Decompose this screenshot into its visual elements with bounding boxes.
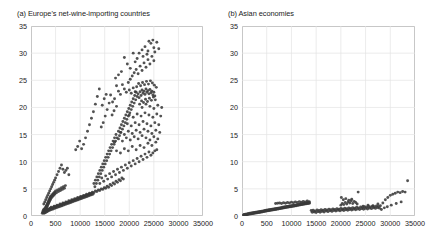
panel-b-plot-area bbox=[242, 26, 415, 216]
y-tick-label: 15 bbox=[216, 130, 238, 139]
x-tick-label: 0 bbox=[29, 219, 33, 228]
panel-europe: (a) Europe's net-wine-importing countrie… bbox=[0, 0, 215, 245]
y-tick-label: 30 bbox=[216, 49, 238, 58]
y-tick-label: 35 bbox=[5, 22, 27, 31]
y-tick-label: 35 bbox=[216, 22, 238, 31]
x-tick-label: 15000 bbox=[95, 219, 115, 228]
y-tick-label: 10 bbox=[216, 157, 238, 166]
y-tick-label: 10 bbox=[5, 157, 27, 166]
x-tick-label: 10000 bbox=[70, 219, 90, 228]
x-tick-label: 30000 bbox=[168, 219, 188, 228]
y-tick-label: 5 bbox=[216, 184, 238, 193]
y-tick-label: 0 bbox=[216, 212, 238, 221]
y-tick-label: 0 bbox=[5, 212, 27, 221]
panel-b-points bbox=[242, 26, 415, 216]
y-tick-label: 5 bbox=[5, 184, 27, 193]
y-tick-label: 30 bbox=[5, 49, 27, 58]
panel-a-plot-area bbox=[31, 26, 203, 216]
x-tick-label: 500 bbox=[261, 219, 273, 228]
x-tick-label: 35000 bbox=[193, 219, 213, 228]
panel-a-title: (a) Europe's net-wine-importing countrie… bbox=[17, 9, 150, 18]
panel-asia: (b) Asian economies 05101520253035050010… bbox=[212, 0, 431, 245]
x-tick-label: 500 bbox=[50, 219, 62, 228]
x-tick-label: 15000 bbox=[306, 219, 326, 228]
figure-root: (a) Europe's net-wine-importing countrie… bbox=[0, 0, 431, 245]
x-tick-label: 30000 bbox=[380, 219, 400, 228]
x-tick-label: 20000 bbox=[331, 219, 351, 228]
x-tick-label: 25000 bbox=[144, 219, 164, 228]
panel-a-points bbox=[31, 26, 203, 216]
y-tick-label: 20 bbox=[216, 103, 238, 112]
y-tick-label: 20 bbox=[5, 103, 27, 112]
x-tick-label: 0 bbox=[240, 219, 244, 228]
x-tick-label: 25000 bbox=[356, 219, 376, 228]
y-tick-label: 25 bbox=[216, 76, 238, 85]
x-tick-label: 20000 bbox=[119, 219, 139, 228]
panel-b-title: (b) Asian economies bbox=[228, 9, 294, 18]
y-tick-label: 25 bbox=[5, 76, 27, 85]
y-tick-label: 15 bbox=[5, 130, 27, 139]
x-tick-label: 35000 bbox=[405, 219, 425, 228]
x-tick-label: 10000 bbox=[281, 219, 301, 228]
